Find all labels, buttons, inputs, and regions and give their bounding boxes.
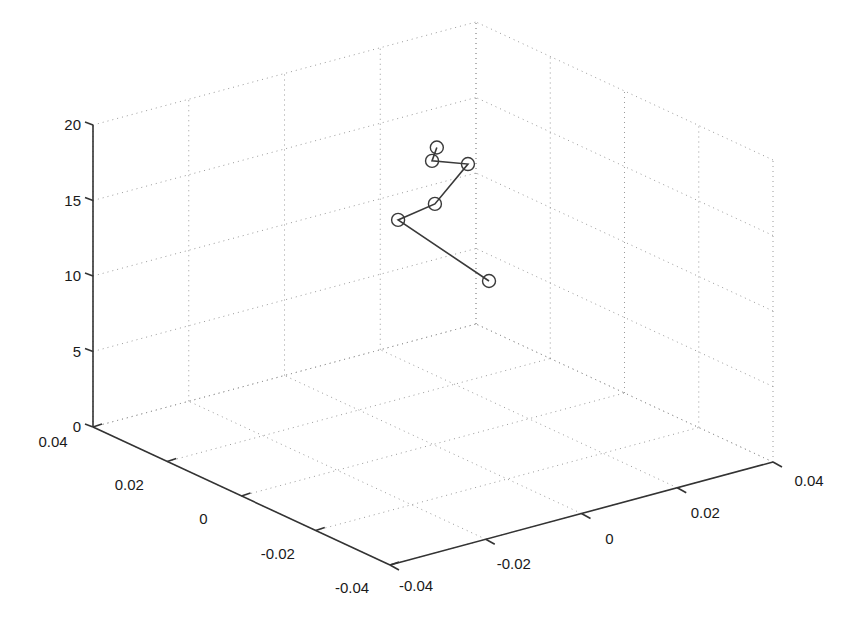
wall-grid-line — [476, 22, 773, 160]
x-tick — [316, 528, 325, 531]
x-tick-label: -0.04 — [335, 579, 369, 596]
z-tick-label: 10 — [64, 267, 81, 284]
x-tick — [93, 424, 102, 427]
wall-grid-line — [476, 98, 773, 236]
z-tick — [85, 273, 93, 276]
z-tick — [85, 198, 93, 201]
z-tick-label: 20 — [64, 116, 81, 133]
floor-grid-line — [285, 376, 582, 514]
series-line — [398, 148, 489, 281]
x-tick — [167, 459, 176, 462]
z-tick — [85, 349, 93, 352]
x-tick-label: 0.02 — [115, 476, 144, 493]
floor-grid-line — [380, 350, 677, 488]
x-tick-label: 0.04 — [38, 433, 67, 450]
y-tick-label: -0.04 — [399, 577, 433, 594]
z-tick — [85, 424, 93, 427]
3d-line-plot: 051015200.040.020-0.02-0.04-0.04-0.0200.… — [0, 0, 858, 624]
y-tick — [773, 462, 782, 467]
x-tick — [242, 493, 251, 496]
z-tick-label: 15 — [64, 192, 81, 209]
data-series — [392, 141, 496, 287]
tick-labels: 051015200.040.020-0.02-0.04-0.04-0.0200.… — [38, 116, 823, 596]
z-tick-label: 0 — [73, 418, 81, 435]
axes — [85, 122, 782, 570]
z-tick-label: 5 — [73, 343, 81, 360]
y-tick-label: 0.04 — [794, 472, 823, 489]
y-tick-label: 0.02 — [691, 504, 720, 521]
y-tick — [486, 539, 495, 544]
y-tick — [677, 488, 686, 493]
floor-grid-line — [316, 428, 699, 531]
grid-lines — [93, 22, 773, 565]
x-tick-label: -0.02 — [261, 545, 295, 562]
y-tick — [582, 514, 591, 519]
z-tick — [85, 122, 93, 125]
y-tick-label: 0 — [605, 530, 613, 547]
floor-grid-line — [242, 393, 625, 496]
y-tick-label: -0.02 — [497, 555, 531, 572]
x-tick-label: 0 — [199, 510, 207, 527]
floor-grid-line — [189, 401, 486, 539]
y-tick — [390, 565, 399, 570]
